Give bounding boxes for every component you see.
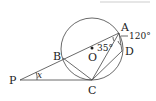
center-dot — [91, 47, 94, 50]
label-b: B — [53, 50, 61, 63]
label-d: D — [125, 45, 134, 58]
angle-label-35: 35° — [97, 43, 113, 53]
angle-arc-bac — [113, 37, 114, 41]
angle-label-x: x — [37, 70, 42, 80]
segment-pa — [20, 33, 119, 80]
label-p: P — [9, 74, 17, 87]
angle-label-120: 120° — [129, 31, 151, 41]
label-o: O — [88, 51, 97, 64]
geometry-diagram: A B C D P O 35° 120° x — [0, 0, 156, 101]
label-c: C — [88, 84, 96, 97]
